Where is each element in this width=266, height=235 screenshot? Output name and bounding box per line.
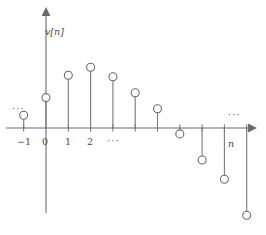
stem-marker (131, 89, 139, 97)
stem-n-9 (243, 128, 251, 219)
y-axis-arrowhead (42, 7, 51, 16)
stem-plot-canvas (0, 0, 266, 235)
x-tick-label-0: 0 (42, 137, 48, 147)
stem-marker (220, 175, 228, 183)
stem-n-1 (64, 71, 72, 128)
stem-n-0 (42, 94, 50, 128)
x-tick-label-2: 2 (87, 137, 93, 147)
x-axis-arrowhead (248, 124, 257, 133)
stem-n-2 (87, 63, 95, 128)
x-axis-group (6, 124, 257, 133)
stem-n-7 (198, 128, 206, 164)
stem-marker (109, 73, 117, 81)
stem-marker (243, 211, 251, 219)
x-tick-label-ellipsis: ··· (107, 136, 120, 146)
stem-n-8 (220, 128, 228, 183)
stem-marker (154, 105, 162, 113)
stem-plot-figure: v[n] n −1 0 1 2 ··· ··· ··· (0, 0, 266, 235)
stem-n-3 (109, 73, 117, 128)
stem-series (20, 63, 251, 219)
left-ellipsis: ··· (12, 104, 25, 114)
x-axis-label: n (228, 139, 234, 149)
right-ellipsis: ··· (228, 110, 241, 120)
x-tick-label-minus-1: −1 (17, 137, 31, 147)
x-tick-label-1: 1 (65, 137, 71, 147)
stem-marker (176, 130, 184, 138)
stem-marker (42, 94, 50, 102)
stem-marker (198, 156, 206, 164)
stem-marker (64, 71, 72, 79)
stem-n-5 (154, 105, 162, 128)
y-axis-label: v[n] (45, 27, 64, 37)
stem-n-4 (131, 89, 139, 128)
stem-marker (87, 63, 95, 71)
stem-n-6 (176, 128, 184, 138)
